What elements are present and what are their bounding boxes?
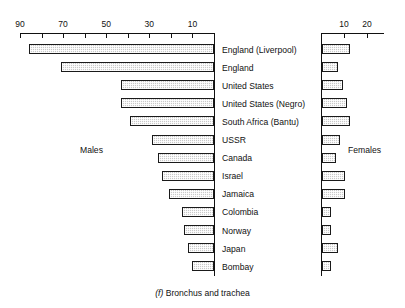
females-panel-label: Females: [348, 145, 381, 155]
figure-caption: (f) Bronchus and trachea: [0, 288, 405, 298]
females-axis-line: [321, 33, 384, 34]
bar-males-4: [130, 116, 214, 126]
males-tick-80: [42, 33, 43, 38]
category-label-11: Japan: [222, 244, 245, 254]
bar-males-11: [188, 243, 214, 253]
bar-females-10: [322, 225, 331, 235]
males-tick-70: [63, 33, 64, 38]
category-label-10: Norway: [222, 226, 251, 236]
males-tick-20: [171, 33, 172, 38]
bronchus-trachea-bar-chart: 9070503010 1020 England (Liverpool)Engla…: [0, 0, 405, 308]
males-tick-10: [192, 33, 193, 38]
males-tick-label-50: 50: [94, 20, 118, 29]
category-label-5: USSR: [222, 135, 246, 145]
bar-males-1: [61, 62, 214, 72]
bar-males-12: [192, 261, 214, 271]
category-label-9: Colombia: [222, 207, 258, 217]
females-tick-label-10: 10: [332, 20, 356, 29]
males-tick-90: [20, 33, 21, 38]
category-label-1: England: [222, 63, 254, 73]
figure-caption-index: (f): [155, 288, 163, 298]
bar-females-1: [322, 62, 338, 72]
males-panel-label: Males: [80, 145, 103, 155]
bar-males-0: [29, 44, 214, 54]
bar-males-3: [121, 98, 214, 108]
figure-caption-text: Bronchus and trachea: [166, 288, 250, 298]
bar-females-6: [322, 153, 336, 163]
males-tick-label-10: 10: [180, 20, 204, 29]
category-label-8: Jamaica: [222, 189, 254, 199]
category-label-6: Canada: [222, 153, 252, 163]
males-tick-label-70: 70: [51, 20, 75, 29]
bar-males-6: [158, 153, 214, 163]
bar-males-7: [162, 171, 214, 181]
bar-females-5: [322, 135, 340, 145]
bar-females-7: [322, 171, 345, 181]
bar-males-9: [182, 207, 214, 217]
bar-females-4: [322, 116, 350, 126]
bar-females-11: [322, 243, 338, 253]
category-label-0: England (Liverpool): [222, 45, 297, 55]
bar-males-2: [121, 80, 214, 90]
females-tick-20: [367, 33, 368, 38]
bar-females-9: [322, 207, 331, 217]
bar-females-3: [322, 98, 347, 108]
females-tick-10: [344, 33, 345, 38]
bar-males-8: [169, 189, 214, 199]
females-tick-label-20: 20: [355, 20, 379, 29]
bar-males-10: [184, 225, 214, 235]
males-tick-60: [85, 33, 86, 38]
males-tick-0: [214, 33, 215, 38]
bar-females-8: [322, 189, 345, 199]
males-axis-line: [20, 33, 215, 34]
category-label-3: United States (Negro): [222, 99, 305, 109]
bar-females-12: [322, 261, 331, 271]
males-tick-40: [128, 33, 129, 38]
category-label-4: South Africa (Bantu): [222, 117, 299, 127]
bar-males-5: [152, 135, 215, 145]
males-tick-label-30: 30: [137, 20, 161, 29]
bar-females-0: [322, 44, 350, 54]
females-tick-0: [321, 33, 322, 38]
males-tick-label-90: 90: [8, 20, 32, 29]
category-label-2: United States: [222, 81, 274, 91]
males-tick-30: [149, 33, 150, 38]
males-tick-50: [106, 33, 107, 38]
males-axis-baseline: [214, 33, 215, 276]
category-label-12: Bombay: [222, 262, 254, 272]
category-label-7: Israel: [222, 171, 243, 181]
bar-females-2: [322, 80, 343, 90]
